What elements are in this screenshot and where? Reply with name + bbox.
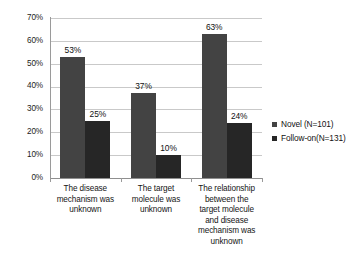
- y-tick-label: 50%: [27, 60, 43, 68]
- bar-novel: [131, 93, 156, 178]
- y-tick-label: 30%: [27, 105, 43, 113]
- legend-label: Follow-on(N=131): [281, 134, 346, 143]
- bars-layer: 53%25%37%10%63%24%: [50, 18, 262, 178]
- legend-item[interactable]: Follow-on(N=131): [272, 131, 358, 145]
- bar-value-label: 37%: [125, 82, 162, 90]
- x-axis-label: The diseasemechanism wasunknown: [46, 184, 125, 216]
- y-axis: 0%10%20%30%40%50%60%70%: [0, 0, 46, 182]
- bar-follow-on: [227, 123, 252, 178]
- y-tick-label: 20%: [27, 128, 43, 136]
- chart-legend: Novel (N=101)Follow-on(N=131): [272, 117, 358, 145]
- x-axis-tick: [191, 178, 192, 182]
- y-tick-label: 0%: [31, 174, 43, 182]
- x-axis-category-labels: The diseasemechanism wasunknownThe targe…: [50, 184, 262, 267]
- bar-value-label: 25%: [79, 110, 116, 118]
- y-tick-label: 70%: [27, 14, 43, 22]
- bar-value-label: 63%: [196, 23, 233, 31]
- x-axis-tick: [262, 178, 263, 182]
- x-axis-label: The targetmolecule wasunknown: [117, 184, 196, 216]
- bar-value-label: 24%: [221, 112, 258, 120]
- y-tick-label: 40%: [27, 82, 43, 90]
- y-tick-label: 10%: [27, 151, 43, 159]
- legend-swatch-icon: [272, 136, 277, 141]
- y-tick-label: 60%: [27, 37, 43, 45]
- x-axis-label: The relationshipbetween thetarget molecu…: [187, 184, 266, 248]
- legend-item[interactable]: Novel (N=101): [272, 117, 358, 131]
- bar-value-label: 53%: [54, 46, 91, 54]
- bar-follow-on: [85, 121, 110, 178]
- bar-chart: 0%10%20%30%40%50%60%70% 53%25%37%10%63%2…: [0, 0, 358, 267]
- bar-value-label: 10%: [150, 144, 187, 152]
- x-axis-tick: [50, 178, 51, 182]
- axis-baseline: [50, 178, 262, 179]
- bar-novel: [202, 34, 227, 178]
- legend-label: Novel (N=101): [281, 120, 333, 129]
- legend-swatch-icon: [272, 122, 277, 127]
- x-axis-tick: [121, 178, 122, 182]
- bar-follow-on: [156, 155, 181, 178]
